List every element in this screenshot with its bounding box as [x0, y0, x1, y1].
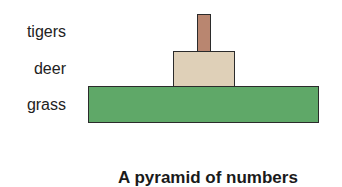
diagram-title: A pyramid of numbers — [0, 168, 342, 187]
label-tigers: tigers — [27, 24, 66, 40]
bar-tigers — [197, 14, 211, 53]
label-grass: grass — [27, 97, 66, 113]
bar-deer — [173, 51, 235, 87]
label-deer: deer — [34, 61, 66, 77]
bar-grass — [88, 86, 319, 123]
